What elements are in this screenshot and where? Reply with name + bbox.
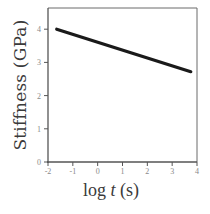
y-tick-label: 0 (37, 158, 41, 167)
y-tick-label: 3 (37, 58, 41, 67)
data-series (57, 29, 191, 71)
stiffness-vs-log-time-chart: 01234 -2-101234 Stiffness (GPa) log t (s… (0, 0, 210, 214)
x-axis-label: log t (s) (83, 180, 139, 201)
x-tick-label: 4 (195, 167, 199, 176)
y-tick-label: 4 (37, 25, 41, 34)
y-tick-label: 2 (37, 92, 41, 101)
y-axis-label: Stiffness (GPa) (10, 19, 30, 150)
y-axis-ticks: 01234 (37, 25, 48, 167)
plot-frame (47, 8, 197, 163)
x-axis-ticks: -2-101234 (45, 162, 199, 176)
x-tick-label: 0 (96, 167, 100, 176)
x-tick-label: 1 (121, 167, 125, 176)
y-tick-label: 1 (37, 125, 41, 134)
stiffness-line (57, 29, 191, 71)
x-tick-label: -2 (45, 167, 52, 176)
x-tick-label: 2 (145, 167, 149, 176)
x-axis-label-prefix: log (83, 180, 111, 200)
x-axis-label-unit: (s) (116, 180, 140, 200)
x-tick-label: 3 (170, 167, 174, 176)
x-tick-label: -1 (69, 167, 76, 176)
